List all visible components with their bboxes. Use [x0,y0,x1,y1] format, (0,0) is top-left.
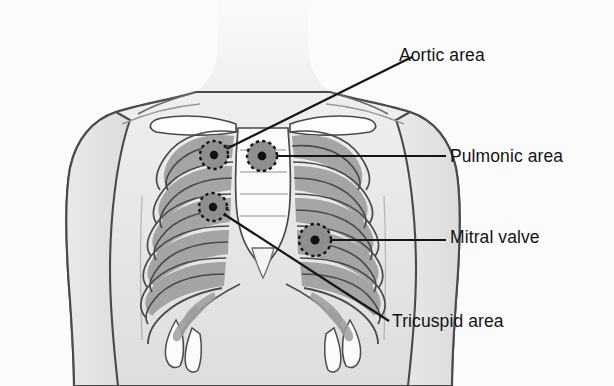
label-pulmonic-area: Pulmonic area [450,146,563,167]
label-mitral-valve: Mitral valve [450,227,540,248]
anatomy-illustration [0,0,614,386]
marker-mitral [299,224,331,256]
label-aortic-area: Aortic area [399,45,485,66]
figure-canvas: Aortic area Pulmonic area Mitral valve T… [0,0,614,386]
marker-pulmonic [247,141,277,171]
marker-tricuspid [199,193,227,221]
label-tricuspid-area: Tricuspid area [392,311,504,332]
marker-aortic [200,141,228,169]
